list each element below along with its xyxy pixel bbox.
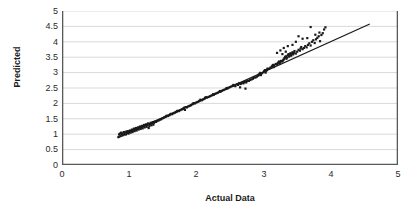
- data-point: [281, 53, 283, 55]
- y-tick-label: 4: [30, 38, 58, 47]
- data-point: [310, 26, 312, 28]
- data-point: [323, 28, 325, 30]
- data-point: [244, 88, 246, 90]
- y-tick-label: 5: [30, 7, 58, 16]
- y-tick-label: 3: [30, 68, 58, 77]
- x-tick-label: 2: [184, 170, 208, 179]
- data-point: [299, 50, 301, 52]
- data-point: [301, 38, 303, 40]
- data-point: [285, 51, 287, 53]
- y-tick-label: 0.5: [30, 145, 58, 154]
- data-point: [314, 34, 316, 36]
- data-point: [306, 37, 308, 39]
- plot-area: [62, 11, 398, 165]
- data-point: [117, 136, 119, 138]
- y-axis-title: Predicted: [12, 32, 22, 102]
- data-point: [319, 40, 321, 42]
- y-tick-label: 1.5: [30, 115, 58, 124]
- data-point: [287, 45, 289, 47]
- data-point: [148, 127, 150, 129]
- x-axis-title: Actual Data: [62, 193, 398, 203]
- data-point: [310, 44, 312, 46]
- y-tick-label: 0: [30, 161, 58, 170]
- gridlines: [62, 11, 398, 150]
- data-points: [117, 26, 326, 138]
- data-point: [293, 50, 295, 52]
- y-tick-label: 2.5: [30, 84, 58, 93]
- chart-container: Predicted 5 4.5 4 3.5 3 2.5 2 1.5 1 0.5 …: [0, 0, 420, 215]
- data-point: [147, 122, 149, 124]
- data-point: [312, 39, 314, 41]
- data-point: [239, 86, 241, 88]
- x-tick-label: 0: [50, 170, 74, 179]
- y-tick-label: 1: [30, 130, 58, 139]
- data-point: [283, 47, 285, 49]
- data-point: [308, 42, 310, 44]
- data-point: [324, 26, 326, 28]
- data-point: [306, 46, 308, 48]
- y-tick-label: 4.5: [30, 22, 58, 31]
- data-point: [318, 35, 320, 37]
- data-point: [184, 109, 186, 111]
- data-point: [300, 46, 302, 48]
- data-point: [297, 35, 299, 37]
- data-point: [276, 52, 278, 54]
- x-tick-label: 3: [252, 170, 276, 179]
- y-tick-label: 2: [30, 99, 58, 108]
- data-point: [279, 49, 281, 51]
- x-tick-label: 4: [319, 170, 343, 179]
- data-point: [291, 44, 293, 46]
- data-point: [286, 56, 288, 58]
- data-point: [322, 32, 324, 34]
- y-tick-label: 3.5: [30, 53, 58, 62]
- data-point: [318, 31, 320, 33]
- data-point: [314, 42, 316, 44]
- x-tick-label: 1: [117, 170, 141, 179]
- data-point: [259, 72, 261, 74]
- x-tick-label: 5: [386, 170, 410, 179]
- data-point: [295, 41, 297, 43]
- scatter-plot-svg: [62, 11, 398, 165]
- y-axis-tick-labels: 5 4.5 4 3.5 3 2.5 2 1.5 1 0.5 0: [28, 0, 58, 215]
